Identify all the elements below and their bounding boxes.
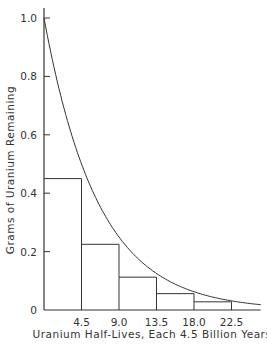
x-tick-label: 18.0 — [182, 316, 205, 328]
x-tick-label: 13.5 — [145, 316, 168, 328]
x-tick-label: 9.0 — [111, 316, 128, 328]
y-tick-label: 0.8 — [20, 70, 37, 82]
y-tick-label: 0.4 — [20, 187, 37, 199]
y-tick-label: 0.6 — [20, 129, 37, 141]
axes — [44, 8, 261, 310]
x-axis-label: Uranium Half-Lives, Each 4.5 Billion Yea… — [33, 328, 267, 340]
x-axis-ticks: 4.59.013.518.022.5 — [73, 316, 243, 328]
y-axis-label: Grams of Uranium Remaining — [4, 86, 16, 254]
y-tick-label: 0 — [30, 304, 37, 316]
x-tick-label: 22.5 — [220, 316, 243, 328]
uranium-decay-chart: 4.59.013.518.022.5 00.20.40.60.81.0 Uran… — [0, 0, 267, 347]
y-tick-label: 1.0 — [20, 12, 37, 24]
y-axis-ticks: 00.20.40.60.81.0 — [20, 12, 50, 316]
chart-svg: 4.59.013.518.022.5 00.20.40.60.81.0 Uran… — [0, 0, 267, 347]
y-tick-label: 0.2 — [20, 246, 37, 258]
step-rectangles — [44, 179, 232, 310]
decay-curve — [44, 18, 261, 305]
x-tick-label: 4.5 — [73, 316, 90, 328]
